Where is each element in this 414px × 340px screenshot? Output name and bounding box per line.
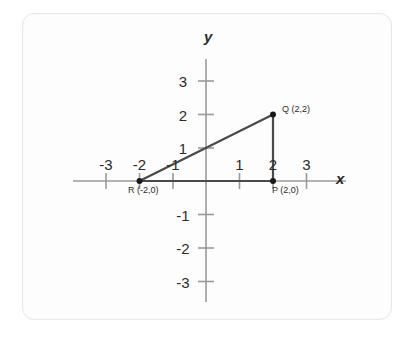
x-tick-label--2: -2 bbox=[127, 157, 153, 172]
point-label-r: R (-2,0) bbox=[128, 186, 159, 195]
y-tick-label-1: 1 bbox=[170, 141, 196, 156]
point-label-p: P (2,0) bbox=[272, 186, 299, 195]
y-tick-label--2: -2 bbox=[170, 241, 196, 256]
x-axis-label: x bbox=[336, 171, 344, 186]
point-marker-q bbox=[270, 112, 276, 118]
figure-card: y x -3 -2 -1 1 2 3 3 2 1 -1 -2 -3 Q (2,2… bbox=[22, 13, 392, 320]
y-tick-label--1: -1 bbox=[170, 208, 196, 223]
y-axis-label: y bbox=[204, 29, 212, 44]
y-tick-label-3: 3 bbox=[170, 74, 196, 89]
x-tick-label-2: 2 bbox=[260, 157, 286, 172]
coordinate-plane-plot bbox=[23, 14, 391, 319]
y-tick-label--3: -3 bbox=[170, 275, 196, 290]
point-marker-p bbox=[270, 178, 276, 184]
point-marker-r bbox=[137, 178, 143, 184]
y-tick-label-2: 2 bbox=[170, 108, 196, 123]
point-label-q: Q (2,2) bbox=[282, 105, 310, 114]
x-tick-label--3: -3 bbox=[93, 157, 119, 172]
x-tick-label--1: -1 bbox=[160, 157, 186, 172]
x-tick-label-1: 1 bbox=[227, 157, 253, 172]
x-tick-label-3: 3 bbox=[294, 157, 320, 172]
